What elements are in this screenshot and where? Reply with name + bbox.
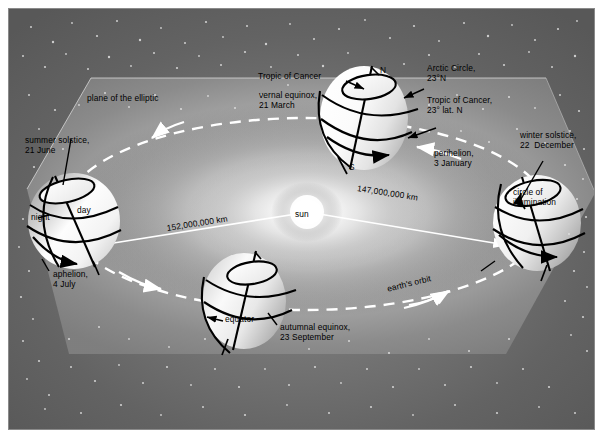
label-south-pole: S: [349, 162, 355, 172]
label-perihelion: perihelion, 3 January: [434, 148, 474, 169]
label-winter-solstice: winter solstice, 22 December: [520, 130, 577, 151]
label-night: night: [31, 212, 50, 222]
label-equator: equator: [225, 314, 254, 324]
diagram-panel: plane of the elliptic summer solstice, 2…: [8, 8, 595, 430]
label-tropic-of-cancer-lat: Tropic of Cancer, 23° lat. N: [427, 95, 492, 116]
label-arctic-circle: Arctic Circle, 23°N: [427, 63, 475, 84]
label-circle-of-illumination: circle of illumination: [513, 187, 556, 208]
label-plane-of-the-elliptic: plane of the elliptic: [87, 93, 158, 103]
label-sun: sun: [295, 209, 309, 219]
label-day: day: [77, 205, 91, 215]
label-tropic-of-cancer: Tropic of Cancer: [258, 71, 321, 81]
label-aphelion: aphelion, 4 July: [53, 269, 88, 290]
label-north-pole: N: [380, 65, 386, 75]
label-autumnal-equinox: autumnal equinox, 23 September: [280, 322, 350, 343]
figure-root: plane of the elliptic summer solstice, 2…: [0, 0, 601, 445]
label-vernal-equinox: vernal equinox, 21 March: [259, 90, 317, 111]
label-summer-solstice: summer solstice, 21 June: [25, 135, 89, 156]
